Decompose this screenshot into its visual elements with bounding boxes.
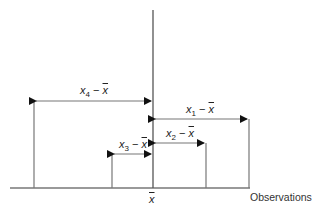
label-x1-deviation: x1 − x	[186, 103, 214, 118]
label-x4-deviation: x4 − x	[80, 84, 108, 99]
deviation-diagram	[0, 0, 319, 212]
label-x2-deviation: x2 − x	[166, 127, 194, 142]
mean-label: x	[149, 193, 155, 205]
label-x3-deviation: x3 − x	[119, 138, 147, 153]
axis-label-observations: Observations	[250, 191, 312, 203]
